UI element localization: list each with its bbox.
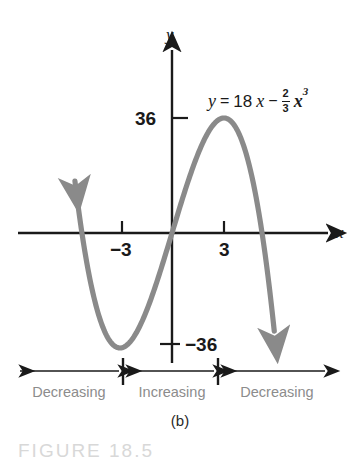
interval-label-middle-increasing: Increasing [126, 384, 218, 400]
equation-label: y = 18x − 2 3 x3 [208, 88, 308, 114]
equation-exponent: 3 [303, 85, 309, 97]
equation-minus: − [268, 93, 277, 109]
equation-fraction: 2 3 [282, 88, 290, 114]
x-axis-label: x [336, 224, 344, 241]
figure-caption: (b) [0, 412, 360, 429]
equation-x-cubic: x [294, 91, 303, 111]
y-axis-label: y [166, 26, 174, 43]
y-tick-label-36: 36 [135, 109, 156, 128]
fraction-denominator: 3 [282, 103, 290, 115]
fraction-numerator: 2 [282, 88, 290, 100]
y-tick-label--36: −36 [185, 335, 217, 354]
equation-x-linear: x [256, 92, 264, 110]
interval-label-right-decreasing: Decreasing [222, 384, 332, 400]
equation-coefficient: 18 [233, 93, 252, 110]
x-tick-label-3: 3 [219, 240, 230, 259]
figure-reference: FIGURE 18.5 [18, 440, 154, 461]
equation-lhs: y [208, 92, 216, 110]
equation-equals: = [220, 93, 229, 109]
interval-label-left-decreasing: Decreasing [14, 384, 124, 400]
x-tick-label--3: −3 [110, 240, 132, 259]
